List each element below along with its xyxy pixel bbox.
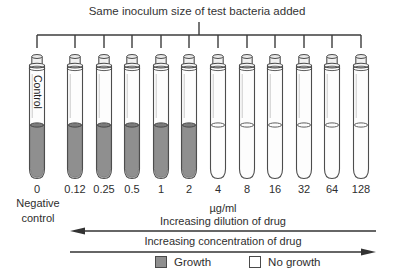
legend-growth-item: Growth [155,256,211,268]
axis-labels: µg/ml Increasing dilution of drug [70,202,376,227]
concentration-label: 64 [326,184,338,195]
concentration-label: 2 [186,184,192,195]
legend-no-growth-label: No growth [268,256,320,268]
inoculum-bracket [0,20,394,50]
tube-1: 1 [148,52,174,195]
test-tube-icon [62,52,88,182]
concentration-label: 8 [244,184,250,195]
concentration-label: 4 [215,184,221,195]
tube-8: 8 [234,52,260,195]
test-tube-icon [176,52,202,182]
test-tube-icon [234,52,260,182]
tube-0: Control 0 [24,52,50,195]
test-tube-icon [262,52,288,182]
tube-0.5: 0.5 [119,52,145,195]
test-tube-icon [205,52,231,182]
concentration-arrow-label: Increasing concentration of drug [70,235,376,247]
control-tube-text: Control [32,75,44,109]
tube-16: 16 [262,52,288,195]
tube-0.12: 0.12 [62,52,88,195]
legend: Growth No growth [155,256,321,268]
test-tube-icon: Control [24,52,50,182]
test-tube-icon [148,52,174,182]
concentration-label: 0.25 [93,184,114,195]
tube-32: 32 [291,52,317,195]
concentration-label: 1 [158,184,164,195]
tube-4: 4 [205,52,231,195]
broth-dilution-figure: Same inoculum size of test bacteria adde… [0,0,394,279]
tube-128: 128 [348,52,374,195]
concentration-label: 0 [34,184,40,195]
unit-label: µg/ml [70,202,376,214]
concentration-label: 0.12 [64,184,85,195]
figure-title: Same inoculum size of test bacteria adde… [0,5,394,17]
tube-0.25: 0.25 [91,52,117,195]
concentration-label: 0.5 [124,184,139,195]
test-tube-icon [319,52,345,182]
test-tube-icon [348,52,374,182]
concentration-label: 16 [269,184,281,195]
concentration-label: 128 [352,184,370,195]
test-tube-icon [91,52,117,182]
growth-swatch-icon [155,256,167,268]
legend-growth-label: Growth [174,256,211,268]
tube-2: 2 [176,52,202,195]
no-growth-swatch-icon [249,256,261,268]
test-tube-icon [119,52,145,182]
negative-control-label: Negative control [9,196,67,226]
tube-64: 64 [319,52,345,195]
legend-no-growth-item: No growth [249,256,320,268]
concentration-label: 32 [298,184,310,195]
test-tube-icon [291,52,317,182]
